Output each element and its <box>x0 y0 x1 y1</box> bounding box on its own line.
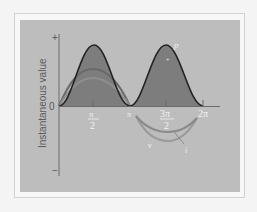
x-tick-3pi-over-2-den: 2 <box>164 120 169 131</box>
x-tick-pi-over-2-num: π <box>89 109 94 119</box>
chart-svg: + − 0 Instantaneous value π 2 π 3π 2 2π … <box>0 0 257 212</box>
label-v: v <box>148 141 152 150</box>
power-area <box>59 45 203 106</box>
x-tick-2pi: 2π <box>198 108 208 119</box>
y-tick-plus: + <box>52 32 58 43</box>
label-i: i <box>185 146 187 155</box>
x-tick-3pi-over-2-num: 3π <box>160 108 170 119</box>
y-tick-zero: 0 <box>49 101 55 112</box>
label-p: p <box>173 40 179 50</box>
y-tick-minus: − <box>52 165 58 176</box>
x-tick-pi-over-2-den: 2 <box>90 120 95 131</box>
y-axis-label: Instantaneous value <box>37 58 48 148</box>
x-tick-pi: π <box>127 110 131 119</box>
